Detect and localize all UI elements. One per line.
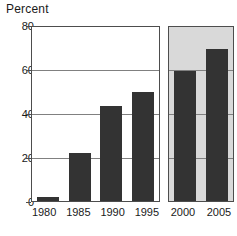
bar-group-projected bbox=[169, 27, 233, 201]
bar-1990 bbox=[100, 106, 122, 201]
bar-2000 bbox=[174, 71, 196, 202]
x-tick-label-1985: 1985 bbox=[66, 206, 90, 218]
y-axis-title: Percent bbox=[6, 2, 49, 16]
y-tick-mark-0 bbox=[26, 202, 31, 203]
x-tick-label-2005: 2005 bbox=[207, 206, 231, 218]
bar-group-actual bbox=[32, 27, 159, 201]
x-axis-labels-projected: 2000 2005 bbox=[165, 206, 237, 226]
bar-chart: Percent 0 20 40 60 80 1980 1985 1990 bbox=[0, 0, 237, 236]
bar-1985 bbox=[69, 153, 91, 201]
bar-1995 bbox=[132, 92, 154, 201]
bar-1980 bbox=[37, 197, 59, 201]
x-tick-label-1990: 1990 bbox=[100, 206, 124, 218]
bar-2005 bbox=[206, 49, 228, 201]
x-axis-labels-actual: 1980 1985 1990 1995 bbox=[27, 206, 164, 226]
plot-panel-projected bbox=[168, 26, 234, 202]
x-tick-label-2000: 2000 bbox=[171, 206, 195, 218]
x-tick-label-1980: 1980 bbox=[32, 206, 56, 218]
plot-panel-actual bbox=[31, 26, 160, 202]
x-tick-label-1995: 1995 bbox=[135, 206, 159, 218]
